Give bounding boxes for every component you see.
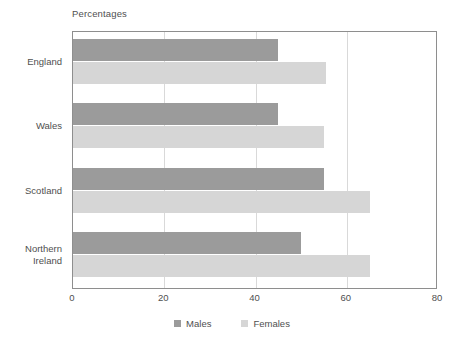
bar-females-scotland — [73, 191, 370, 213]
category-label: Northern Ireland — [25, 243, 62, 266]
legend-item-males[interactable]: Males — [174, 318, 211, 329]
plot-area — [72, 31, 437, 289]
category-label: Scotland — [25, 185, 62, 197]
x-tick-label: 0 — [69, 292, 74, 303]
category-axis-labels: EnglandWalesScotlandNorthern Ireland — [0, 31, 66, 289]
bar-males-northern-ireland — [73, 232, 301, 254]
males-swatch-icon — [174, 320, 181, 327]
bar-males-wales — [73, 103, 278, 125]
legend-item-females[interactable]: Females — [241, 318, 289, 329]
bar-females-northern-ireland — [73, 255, 370, 277]
bar-females-england — [73, 62, 326, 84]
females-swatch-icon — [241, 320, 248, 327]
bar-chart: Percentages EnglandWalesScotlandNorthern… — [0, 0, 464, 346]
category-label: England — [27, 56, 62, 68]
x-tick-label: 60 — [340, 292, 351, 303]
x-axis-tick-labels: 020406080 — [0, 292, 464, 308]
legend-label: Males — [186, 318, 211, 329]
x-tick-label: 40 — [249, 292, 260, 303]
bar-males-scotland — [73, 168, 324, 190]
chart-title: Percentages — [72, 8, 127, 19]
chart-legend: MalesFemales — [0, 318, 464, 329]
bar-females-wales — [73, 126, 324, 148]
x-tick-label: 80 — [432, 292, 443, 303]
x-tick-label: 20 — [158, 292, 169, 303]
category-label: Wales — [36, 120, 62, 132]
bars-layer — [73, 32, 436, 288]
legend-label: Females — [253, 318, 289, 329]
bar-males-england — [73, 39, 278, 61]
